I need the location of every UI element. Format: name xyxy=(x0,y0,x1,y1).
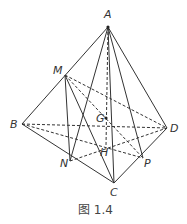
pyramid-figure: A M B D C N P G H 图 1.4 xyxy=(0,0,187,224)
edge-ND xyxy=(70,128,167,161)
label-m: M xyxy=(53,64,63,77)
label-c: C xyxy=(110,186,118,199)
label-p: P xyxy=(144,157,151,170)
edge-AC xyxy=(108,27,114,183)
label-g: G xyxy=(96,112,105,125)
label-n: N xyxy=(60,157,68,170)
label-b: B xyxy=(10,118,18,131)
label-a: A xyxy=(104,8,112,21)
edge-MN xyxy=(65,75,70,161)
edge-AH xyxy=(106,27,108,146)
label-d: D xyxy=(170,122,178,135)
edge-BD xyxy=(22,124,167,128)
edge-BP xyxy=(22,124,143,158)
geometry-drawing xyxy=(0,0,187,224)
figure-caption: 图 1.4 xyxy=(78,200,113,217)
label-h: H xyxy=(100,146,108,159)
